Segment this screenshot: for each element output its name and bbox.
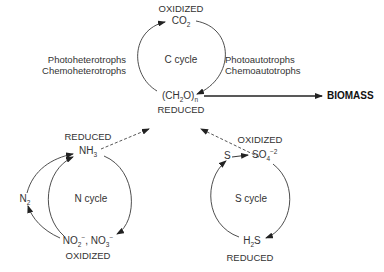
- n-cycle-inner-left-arc: [48, 157, 73, 236]
- c-cycle-right-arc: [196, 21, 225, 94]
- c-top-state-label: OXIDIZED: [159, 3, 204, 14]
- nh3-subscript: 3: [93, 151, 97, 158]
- s-cycle-label: S cycle: [235, 193, 267, 204]
- no3-sub: 3: [106, 241, 110, 248]
- h2s-s: S: [254, 235, 261, 246]
- s-cycle-right-arc: [266, 164, 290, 238]
- c-cycle-label: C cycle: [165, 54, 198, 65]
- so4-charge: −2: [270, 148, 277, 155]
- nh3-label: NH3: [79, 145, 97, 156]
- c-bottom-state-label: REDUCED: [158, 104, 205, 115]
- n2-subscript: 2: [27, 199, 31, 206]
- nitrate-to-n2-arc: [28, 206, 60, 238]
- nh3-base: NH: [79, 145, 93, 156]
- co2-label: CO2: [172, 15, 191, 26]
- co2-subscript: 2: [187, 21, 191, 28]
- no3-base: NO: [91, 235, 106, 246]
- ch2o-part2: O): [183, 90, 194, 101]
- no2-base: NO: [63, 235, 78, 246]
- so4-base: SO: [252, 149, 266, 160]
- s-to-so4-arrow: [232, 155, 248, 157]
- no2-sub: 2: [78, 241, 82, 248]
- c-cycle-left-arc: [138, 22, 165, 91]
- photoheterotrophs-label: Photoheterotrophs: [42, 54, 126, 65]
- chemoheterotrophs-label: Chemoheterotrophs: [42, 65, 126, 76]
- nitrite-nitrate-label: NO2−, NO3−: [63, 235, 113, 246]
- sulfate-label: SO4−2: [252, 149, 278, 160]
- co2-base: CO: [172, 15, 187, 26]
- autotrophs-labels: Photoautotrophs Chemoautotrophs: [225, 54, 301, 76]
- photoautotrophs-label: Photoautotrophs: [225, 54, 301, 65]
- organic-carbon-label: (CH2O)n: [162, 90, 198, 101]
- s-bottom-state-label: REDUCED: [227, 252, 274, 263]
- elemental-sulfur-label: S: [224, 150, 231, 161]
- ch2o-part1: (CH: [162, 90, 180, 101]
- so4-sub: 4: [266, 155, 270, 162]
- hydrogen-sulfide-label: H2S: [243, 235, 261, 246]
- heterotrophs-labels: Photoheterotrophs Chemoheterotrophs: [42, 54, 126, 76]
- n2-label: N2: [20, 193, 31, 204]
- chemoautotrophs-label: Chemoautotrophs: [225, 65, 301, 76]
- n-bottom-state-label: OXIDIZED: [66, 250, 111, 261]
- cycle-diagram: [0, 0, 384, 272]
- no3-charge: −: [109, 234, 113, 241]
- ch2o-sub-n: n: [194, 96, 198, 103]
- n-cycle-right-arc: [104, 156, 131, 234]
- biomass-label: BIOMASS: [327, 90, 374, 101]
- s-top-state-label: OXIDIZED: [238, 134, 283, 145]
- n-cycle-label: N cycle: [75, 193, 108, 204]
- n-top-state-label: REDUCED: [65, 131, 112, 142]
